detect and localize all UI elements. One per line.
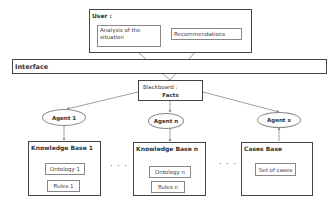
rules-1: Rules 1 <box>47 180 80 192</box>
agent-1: Agent 1 <box>42 109 86 126</box>
blackboard-facts: Facts <box>139 92 202 98</box>
ellipsis-1: · · · <box>110 162 128 171</box>
analysis-box: Analysis of the situation <box>97 25 161 47</box>
ontology-n: Ontology n <box>149 166 191 178</box>
blackboard-box: Blackboard : Facts <box>138 80 203 101</box>
user-title: User : <box>92 12 112 19</box>
blackboard-title: Blackboard : <box>143 84 177 90</box>
interface-bar: Interface <box>12 59 327 74</box>
kbn-title: Knowledge Base n <box>136 145 198 152</box>
rules-n: Rules n <box>151 181 185 193</box>
kb1-title: Knowledge Base 1 <box>31 144 93 151</box>
agent-x: Agent x <box>257 112 301 128</box>
recommendations-box: Recommendations <box>171 28 242 40</box>
user-box: User : Analysis of the situation Recomme… <box>89 9 252 53</box>
agent-n: Agent n <box>148 113 184 129</box>
set-of-cases: Set of cases <box>255 163 296 176</box>
interface-label: Interface <box>15 63 48 71</box>
ontology-1: Ontology 1 <box>45 163 85 175</box>
cases-base: Cases Base Set of cases <box>241 142 313 196</box>
knowledge-base-n: Knowledge Base n Ontology n Rules n <box>133 142 206 196</box>
ellipsis-2: · · · <box>219 160 237 169</box>
cases-base-title: Cases Base <box>244 145 282 152</box>
knowledge-base-1: Knowledge Base 1 Ontology 1 Rules 1 <box>28 141 101 196</box>
